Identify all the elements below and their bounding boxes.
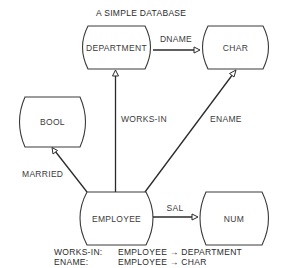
legend-mapping: EMPLOYEE → CHAR bbox=[118, 257, 207, 267]
edge-ename: ENAME bbox=[145, 70, 242, 192]
node-department: DEPARTMENT bbox=[83, 26, 151, 69]
edge-sal-label: SAL bbox=[167, 203, 184, 213]
legend-name: ENAME: bbox=[54, 257, 88, 267]
edge-sal: SAL bbox=[153, 203, 198, 220]
node-bool-label: BOOL bbox=[40, 117, 65, 127]
arrowhead-icon bbox=[230, 70, 237, 77]
edge-ename-label: ENAME bbox=[210, 114, 242, 124]
node-num: NUM bbox=[200, 192, 269, 245]
node-employee: EMPLOYEE bbox=[80, 192, 153, 245]
database-diagram: A SIMPLE DATABASE DEPARTMENT CHAR BOOL E… bbox=[0, 0, 284, 268]
legend-name: WORKS-IN: bbox=[54, 247, 103, 257]
node-char-label: CHAR bbox=[223, 43, 248, 53]
diagram-title: A SIMPLE DATABASE bbox=[96, 8, 186, 18]
node-department-label: DEPARTMENT bbox=[86, 43, 147, 53]
edge-dname: DNAME bbox=[153, 34, 200, 53]
node-num-label: NUM bbox=[224, 214, 244, 224]
legend: WORKS-IN: EMPLOYEE → DEPARTMENT ENAME: E… bbox=[54, 247, 242, 267]
arrowhead-icon bbox=[194, 47, 200, 53]
edge-married: MARRIED bbox=[22, 148, 87, 193]
edge-married-label: MARRIED bbox=[22, 169, 63, 179]
legend-mapping: EMPLOYEE → DEPARTMENT bbox=[118, 247, 242, 257]
arrowhead-icon bbox=[192, 214, 198, 220]
arrowhead-icon bbox=[113, 70, 119, 76]
edge-works-in-label: WORKS-IN bbox=[121, 114, 167, 124]
edge-dname-label: DNAME bbox=[160, 34, 192, 44]
node-employee-label: EMPLOYEE bbox=[92, 214, 141, 224]
node-char: CHAR bbox=[203, 26, 269, 69]
node-bool: BOOL bbox=[20, 97, 86, 147]
